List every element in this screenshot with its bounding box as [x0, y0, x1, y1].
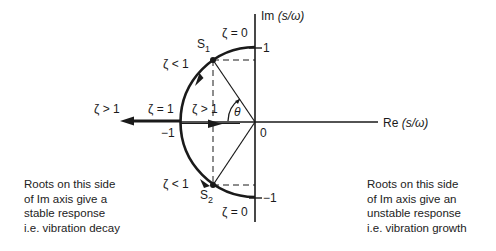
unstable-note-line: Roots on this side: [367, 177, 467, 192]
stable-note-line: stable response: [24, 206, 120, 221]
left-arrow-head: [120, 117, 134, 126]
re-unit-text: (s/ω): [402, 116, 429, 130]
im-label-text: Im: [261, 9, 274, 23]
re-label-text: Re: [383, 116, 398, 130]
tick-label-re-neg1: −1: [161, 127, 175, 140]
stable-note-line: i.e. vibration decay: [24, 221, 120, 236]
s2-subscript: 2: [208, 195, 213, 205]
unstable-note-line: unstable response: [367, 206, 467, 221]
inner-arrow-head: [208, 120, 222, 129]
stable-note-line: of Im axis give a: [24, 192, 120, 207]
root-s1-label: S1: [197, 38, 210, 52]
zeta-eq1-label: ζ = 1: [148, 103, 174, 116]
im-axis-label: Im (s/ω): [261, 10, 304, 23]
origin-label: 0: [260, 127, 267, 140]
radius-to-s2: [213, 122, 255, 185]
unstable-note: Roots on this side of Im axis give an un…: [367, 177, 467, 235]
zeta-lt1-lower-label: ζ < 1: [163, 178, 189, 191]
tick-label-im-neg1: −1: [263, 192, 277, 205]
re-axis-label: Re (s/ω): [383, 117, 428, 130]
s1-subscript: 1: [205, 44, 210, 54]
zeta-zero-bottom-label: ζ = 0: [222, 206, 248, 219]
im-unit-text: (s/ω): [278, 9, 305, 23]
root-locus-diagram: Im (s/ω) Re (s/ω) 1 −1 −1 0 S1 S2 ζ = 0 …: [0, 0, 496, 251]
stable-note-line: Roots on this side: [24, 177, 120, 192]
zeta-gt1-far-label: ζ > 1: [94, 103, 120, 116]
s1-letter: S: [197, 37, 205, 51]
root-s2-label: S2: [200, 189, 213, 203]
zeta-zero-top-label: ζ = 0: [222, 27, 248, 40]
unstable-note-line: of Im axis give an: [367, 192, 467, 207]
zeta-gt1-inner-label: ζ > 1: [192, 103, 218, 116]
stable-note: Roots on this side of Im axis give a sta…: [24, 177, 120, 235]
tick-label-im-1: 1: [263, 42, 270, 55]
unstable-note-line: i.e. vibration growth: [367, 221, 467, 236]
theta-label: θ: [234, 106, 241, 119]
zeta-lt1-upper-label: ζ < 1: [163, 58, 189, 71]
s2-letter: S: [200, 188, 208, 202]
